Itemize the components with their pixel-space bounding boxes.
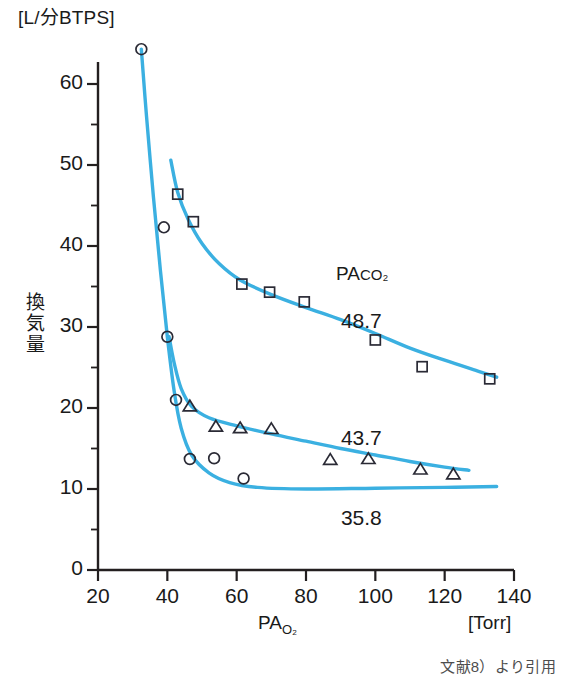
data-point-triangle xyxy=(265,423,278,434)
y-tick-label: 30 xyxy=(37,313,83,337)
group-label-paco2: PACO₂ xyxy=(336,263,388,285)
x-tick-label: 20 xyxy=(68,584,128,608)
source-credit: 文献8）より引用 xyxy=(440,655,556,676)
x-tick-label: 60 xyxy=(207,584,267,608)
y-tick-label: 40 xyxy=(37,232,83,256)
group-label-main: PA xyxy=(336,263,360,284)
y-tick-label: 10 xyxy=(37,475,83,499)
y-tick-label: 50 xyxy=(37,151,83,175)
chart-markers xyxy=(136,44,495,484)
y-tick-label: 60 xyxy=(37,70,83,94)
data-point-circle xyxy=(238,473,249,484)
data-point-circle xyxy=(171,395,182,406)
data-point-circle xyxy=(184,454,195,465)
x-tick-label: 40 xyxy=(137,584,197,608)
series-curve-43.7 xyxy=(169,337,469,471)
series-annotation-35.8: 35.8 xyxy=(341,506,382,530)
chart-axes xyxy=(87,62,514,581)
series-annotation-48.7: 48.7 xyxy=(341,309,382,333)
series-annotation-43.7: 43.7 xyxy=(341,426,382,450)
data-point-circle xyxy=(209,453,220,464)
y-tick-label: 0 xyxy=(37,556,83,580)
x-tick-label: 120 xyxy=(415,584,475,608)
chart-curves xyxy=(141,49,496,489)
x-axis-name-main: PA xyxy=(258,612,282,633)
x-tick-label: 100 xyxy=(345,584,405,608)
series-curve-35.8 xyxy=(141,49,496,489)
group-label-sub-wrap: CO₂ xyxy=(360,266,388,283)
data-point-square xyxy=(417,362,427,372)
data-point-triangle xyxy=(324,454,337,465)
data-point-circle xyxy=(162,331,173,342)
ventilation-vs-pao2-chart xyxy=(0,0,564,682)
data-point-circle xyxy=(136,44,147,55)
series-curve-48.7 xyxy=(171,160,497,377)
x-tick-label: 140 xyxy=(484,584,544,608)
x-axis-name: PAO₂ xyxy=(258,612,297,637)
data-point-circle xyxy=(158,222,169,233)
x-axis-unit: [Torr] xyxy=(468,612,511,634)
x-tick-label: 80 xyxy=(276,584,336,608)
x-axis-name-sub: O₂ xyxy=(282,622,297,637)
group-label-sub: CO₂ xyxy=(360,266,388,283)
y-tick-label: 20 xyxy=(37,394,83,418)
